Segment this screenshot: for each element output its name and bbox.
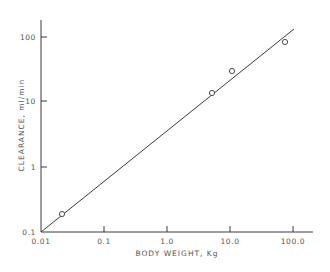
x-axis-label: BODY WEIGHT, Kg xyxy=(135,249,218,258)
x-tick-label: 100.0 xyxy=(281,237,305,246)
y-tick-label: 0.1 xyxy=(22,228,36,237)
data-point xyxy=(59,211,64,216)
y-axis-label: CLEARANCE, ml/min xyxy=(17,79,26,172)
x-ticks xyxy=(104,226,293,232)
x-tick-labels: 0.01 0.1 1.0 10.0 100.0 xyxy=(31,237,305,246)
axes xyxy=(41,20,313,232)
y-ticks xyxy=(41,37,47,167)
data-point xyxy=(282,39,287,44)
y-tick-label: 10 xyxy=(25,97,36,106)
regression-line xyxy=(41,29,294,232)
data-point xyxy=(229,68,234,73)
x-tick-label: 10.0 xyxy=(220,237,239,246)
x-tick-label: 0.01 xyxy=(31,237,50,246)
clearance-vs-body-weight-chart: 0.1 1 10 100 0.01 0.1 1.0 10.0 100.0 BOD… xyxy=(0,0,330,272)
y-tick-label: 100 xyxy=(20,33,36,42)
x-tick-label: 0.1 xyxy=(97,237,111,246)
x-tick-label: 1.0 xyxy=(160,237,174,246)
y-tick-label: 1 xyxy=(31,163,36,172)
data-point xyxy=(209,90,214,95)
